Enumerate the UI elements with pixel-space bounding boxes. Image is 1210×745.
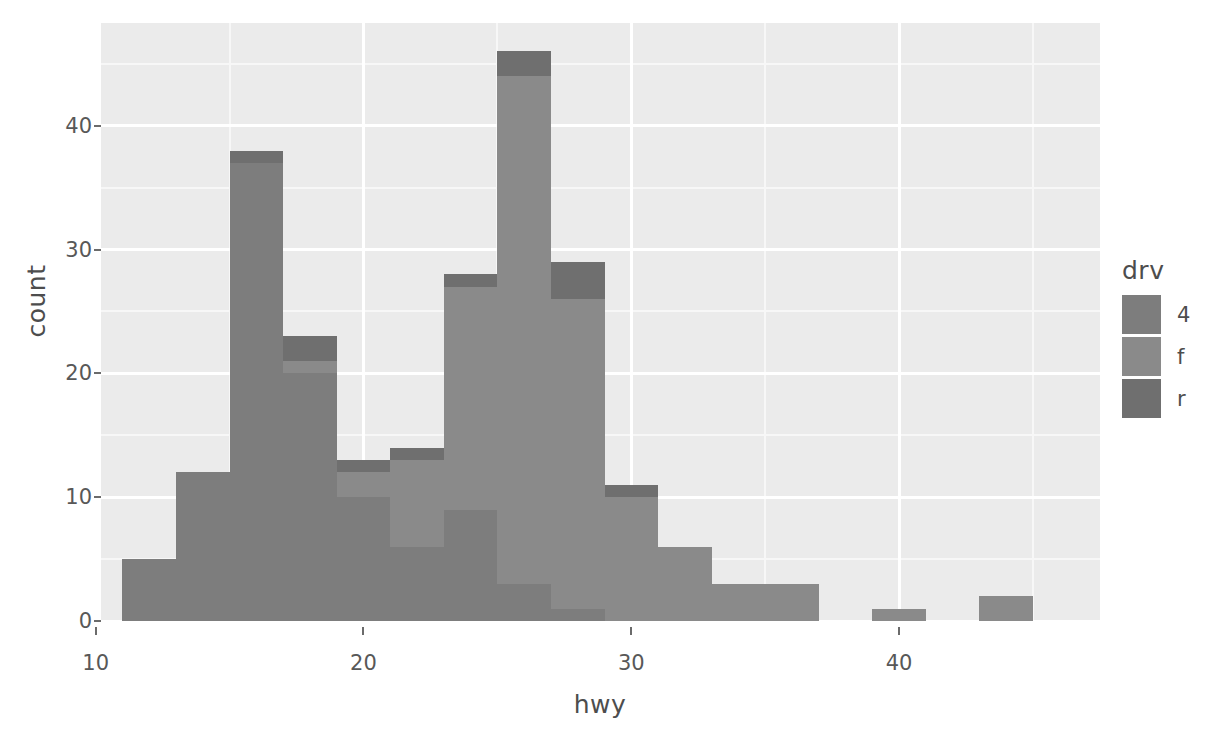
legend-label-f: f (1177, 345, 1184, 369)
x-axis-title: hwy (100, 690, 1100, 719)
bar-segment (337, 472, 391, 497)
y-axis-tick-mark (94, 620, 101, 622)
grid-minor-line-vertical (764, 23, 766, 621)
bar-segment (444, 274, 498, 286)
legend-swatch-r (1122, 379, 1161, 418)
bar-segment (765, 584, 819, 621)
bar-segment (551, 609, 605, 621)
x-axis: 10203040 (0, 635, 1210, 695)
legend-item-4: 4 (1122, 295, 1210, 334)
legend-swatch-f (1122, 337, 1161, 376)
legend-item-r: r (1122, 379, 1210, 418)
bar-segment (122, 559, 176, 621)
legend: drv 4fr (1122, 256, 1210, 421)
bar-segment (605, 485, 659, 497)
bar-segment (230, 163, 284, 621)
y-axis-tick-label: 10 (32, 485, 92, 509)
chart-figure: 010203040 10203040 count hwy drv 4fr (0, 0, 1210, 745)
y-axis-tick-label: 20 (32, 361, 92, 385)
x-axis-tick-mark (362, 627, 364, 635)
bar-segment (658, 547, 712, 621)
plot-panel (101, 23, 1100, 621)
x-axis-tick-label: 10 (61, 651, 131, 675)
bar-segment (497, 76, 551, 584)
y-axis-tick-mark (94, 125, 101, 127)
bar-segment (444, 287, 498, 510)
x-axis-tick-label: 40 (864, 651, 934, 675)
x-axis-tick-mark (898, 627, 900, 635)
y-axis-tick-label: 0 (32, 609, 92, 633)
grid-minor-line-horizontal (101, 63, 1100, 65)
bar-segment (176, 472, 230, 621)
bar-segment (390, 448, 444, 460)
bar-segment (390, 547, 444, 621)
bar-segment (872, 609, 926, 621)
grid-minor-line-vertical (1032, 23, 1034, 621)
bar-segment (551, 262, 605, 299)
x-axis-tick-label: 30 (596, 651, 666, 675)
bar-segment (337, 497, 391, 621)
bar-segment (551, 299, 605, 609)
bar-segment (390, 460, 444, 547)
legend-swatch-4 (1122, 295, 1161, 334)
y-axis-tick-mark (94, 496, 101, 498)
bar-segment (283, 373, 337, 621)
bar-segment (605, 497, 659, 621)
y-axis: 010203040 (20, 0, 92, 745)
legend-label-4: 4 (1177, 303, 1190, 327)
bar-segment (712, 584, 766, 621)
legend-items: 4fr (1122, 295, 1210, 418)
y-axis-tick-label: 40 (32, 114, 92, 138)
y-axis-tick-mark (94, 249, 101, 251)
x-axis-tick-label: 20 (328, 651, 398, 675)
y-axis-tick-mark (94, 372, 101, 374)
bar-segment (283, 361, 337, 373)
bar-segment (337, 460, 391, 472)
legend-item-f: f (1122, 337, 1210, 376)
bar-segment (230, 151, 284, 163)
bar-segment (283, 336, 337, 361)
x-axis-tick-mark (95, 627, 97, 635)
legend-label-r: r (1177, 387, 1186, 411)
bar-segment (497, 584, 551, 621)
bar-segment (497, 51, 551, 76)
bar-segment (979, 596, 1033, 621)
y-axis-title: count (22, 241, 52, 361)
bar-segment (444, 510, 498, 621)
x-axis-tick-mark (630, 627, 632, 635)
legend-title: drv (1122, 256, 1210, 285)
grid-major-line-horizontal (101, 124, 1100, 127)
grid-major-line-vertical (898, 23, 901, 621)
